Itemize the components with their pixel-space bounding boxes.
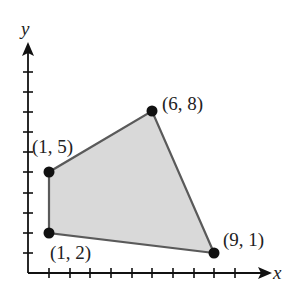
vertex-point bbox=[44, 228, 55, 239]
y-axis-label: y bbox=[19, 18, 30, 39]
vertex-label: (1, 5) bbox=[32, 136, 73, 158]
vertex-label: (9, 1) bbox=[223, 229, 264, 251]
vertex-label: (6, 8) bbox=[162, 93, 203, 115]
coordinate-plane: x y (1, 2) (1, 5) (6, 8) (9, 1) bbox=[0, 0, 282, 293]
shaded-quadrilateral bbox=[49, 111, 214, 253]
vertex-point bbox=[44, 167, 55, 178]
x-axis-label: x bbox=[272, 262, 282, 283]
vertex-point bbox=[147, 106, 158, 117]
vertex-label: (1, 2) bbox=[50, 242, 91, 264]
vertex-point bbox=[209, 248, 220, 259]
